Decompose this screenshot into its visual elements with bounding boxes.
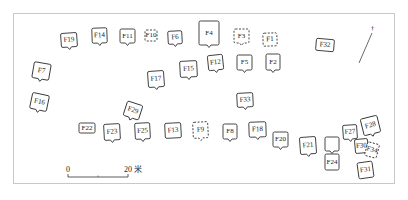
feature-label: F33 — [239, 95, 251, 104]
feature-f10: F10 — [145, 30, 157, 41]
feature-f3: F3 — [234, 29, 249, 46]
feature-label: F15 — [183, 64, 195, 73]
feature-label: F31 — [359, 165, 371, 175]
feature-label: F25 — [137, 126, 149, 135]
feature-f5: F5 — [237, 55, 252, 73]
feature-label: F12 — [210, 58, 222, 67]
feature-f8: F8 — [223, 124, 237, 142]
feature-f29: F29 — [122, 101, 143, 123]
feature-label: F22 — [82, 124, 93, 132]
feature-f15: F15 — [180, 61, 198, 80]
feature-f32: F32 — [316, 38, 335, 52]
feature-f33: F33 — [237, 93, 254, 110]
scale-start-label: 0 — [66, 165, 70, 174]
feature-f14: F14 — [92, 28, 108, 46]
feature-f18: F18 — [249, 122, 267, 140]
feature-f1: F1 — [263, 33, 277, 46]
feature-f9: F9 — [193, 122, 209, 141]
feature-label: F4 — [205, 29, 213, 37]
feature-label: F8 — [226, 127, 234, 135]
feature-f6: F6 — [168, 31, 183, 47]
feature-f25: F25 — [135, 123, 151, 142]
feature-f2: F2 — [266, 54, 280, 73]
feature-label: F32 — [319, 40, 331, 49]
feature-layer: F19F14F11F10F6F4F3F1F32F7F12F5F2F15F17F1… — [29, 21, 381, 179]
feature-label: F19 — [63, 35, 75, 44]
feature-label: F18 — [252, 125, 264, 133]
feature-f17: F17 — [147, 70, 164, 90]
feature-label: F11 — [122, 32, 133, 40]
feature-outline — [325, 137, 339, 154]
feature-f24: F24 — [325, 154, 339, 170]
feature-label: F1 — [266, 35, 274, 43]
feature-f28: F28 — [360, 115, 381, 138]
site-plan: F19F14F11F10F6F4F3F1F32F7F12F5F2F15F17F1… — [0, 0, 408, 200]
feature-label: F2 — [269, 58, 277, 66]
north-label: † — [371, 24, 375, 32]
feature-label: F6 — [171, 33, 179, 41]
feature-f22: F22 — [79, 123, 95, 133]
feature-label: F13 — [167, 126, 179, 135]
feature-unlabeled-27 — [325, 137, 339, 154]
scale-end-label: 20 米 — [124, 164, 142, 174]
feature-f23: F23 — [104, 124, 121, 143]
feature-f12: F12 — [207, 54, 224, 73]
feature-f20: F20 — [273, 132, 288, 150]
feature-label: F9 — [197, 125, 205, 133]
feature-label: F10 — [146, 31, 157, 39]
feature-label: F21 — [302, 141, 314, 150]
feature-label: F14 — [94, 31, 106, 39]
north-arrow-icon: † — [359, 24, 375, 63]
feature-f31: F31 — [357, 161, 374, 179]
feature-label: F17 — [150, 74, 162, 83]
feature-label: F23 — [106, 127, 118, 136]
feature-label: F3 — [238, 32, 246, 40]
feature-f13: F13 — [165, 123, 182, 139]
feature-label: F5 — [241, 58, 249, 66]
feature-f7: F7 — [31, 62, 51, 83]
feature-f21: F21 — [299, 136, 316, 157]
feature-label: F24 — [327, 158, 338, 166]
scale-bar: 0 20 米 — [66, 164, 142, 177]
feature-label: F27 — [344, 127, 356, 136]
feature-f16: F16 — [29, 92, 49, 114]
feature-f11: F11 — [120, 29, 135, 46]
feature-label: F20 — [275, 135, 286, 143]
feature-f4: F4 — [199, 21, 219, 48]
feature-f19: F19 — [61, 32, 78, 50]
